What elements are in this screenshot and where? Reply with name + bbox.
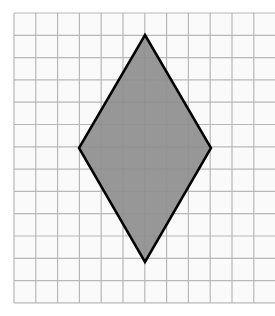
grid-diagram [0, 0, 275, 316]
